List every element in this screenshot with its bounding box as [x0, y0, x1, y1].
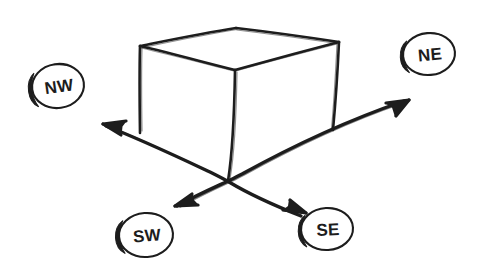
badge-ne-label: NE — [417, 44, 443, 65]
axis-sw-ne — [174, 100, 411, 208]
badge-se-label: SE — [316, 220, 340, 240]
badge-nw[interactable]: NW — [25, 61, 86, 112]
badge-sw[interactable]: SW — [114, 211, 175, 259]
cube — [140, 28, 339, 181]
sketch-canvas: NW NE SW SE — [0, 0, 484, 278]
axis-nw-se — [102, 120, 307, 216]
badge-sw-label: SW — [132, 225, 162, 246]
arrow-se-head — [282, 199, 308, 214]
badge-ne[interactable]: NE — [398, 31, 456, 78]
cube-top-face — [140, 28, 339, 71]
cube-orientation-diagram: NW NE SW SE — [0, 0, 484, 278]
cube-vertical-edges — [140, 42, 339, 181]
